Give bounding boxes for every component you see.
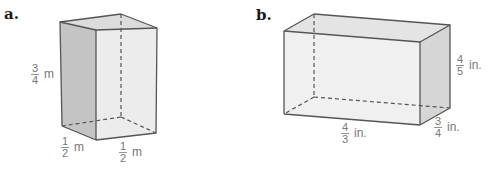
prism-a-height-label: 3 4 m [31,62,54,86]
svg-text:1: 1 [120,140,126,152]
svg-text:in.: in. [469,58,482,72]
svg-text:1: 1 [62,135,68,147]
svg-text:4: 4 [342,121,348,133]
prism-b-length-label: 4 3 in. [341,121,367,145]
svg-text:3: 3 [32,62,38,74]
svg-text:5: 5 [457,65,463,77]
svg-text:2: 2 [62,147,68,159]
figure-b-label: b. [256,6,272,24]
prism-a-width-label: 1 2 m [119,140,142,164]
prism-a-left-face [60,22,96,140]
figure-b: b. 4 5 in. 4 3 in. 3 4 [256,6,482,145]
prism-b-front-face [284,31,420,125]
svg-text:4: 4 [32,74,38,86]
svg-text:4: 4 [435,127,441,139]
svg-text:4: 4 [457,53,463,65]
prism-b-depth-label: 3 4 in. [434,115,460,139]
svg-text:2: 2 [120,152,126,164]
svg-text:m: m [44,67,54,81]
prism-a-depth-label: 1 2 m [61,135,84,159]
svg-text:m: m [132,145,142,159]
figure-a: a. 3 4 m 1 2 m 1 2 [4,5,157,164]
figure-a-label: a. [4,5,19,23]
prism-a-front-face [96,28,157,140]
svg-text:in.: in. [354,126,367,140]
figures-canvas: a. 3 4 m 1 2 m 1 2 [0,0,495,171]
svg-text:3: 3 [435,115,441,127]
svg-text:3: 3 [342,133,348,145]
svg-text:m: m [74,140,84,154]
svg-text:in.: in. [447,120,460,134]
prism-b-height-label: 4 5 in. [456,53,482,77]
